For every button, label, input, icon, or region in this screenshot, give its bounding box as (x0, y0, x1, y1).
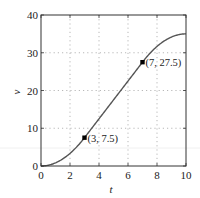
point-marker-square (82, 135, 86, 139)
y-tick-label: 40 (27, 9, 39, 21)
y-tick-label: 30 (27, 47, 39, 59)
x-tick-label: 4 (96, 169, 102, 181)
data-series (41, 34, 186, 166)
point-annotations: (3, 7.5)(7, 27.5) (82, 57, 182, 145)
y-tick-label: 0 (33, 160, 39, 172)
x-tick-label: 10 (181, 169, 193, 181)
y-tick-label: 20 (27, 85, 39, 97)
point-label: (3, 7.5) (88, 133, 119, 145)
velocity-curve (41, 34, 186, 166)
x-tick-label: 2 (67, 169, 73, 181)
y-tick-label: 10 (27, 122, 39, 134)
x-tick-label: 6 (125, 169, 131, 181)
y-axis-label: v (10, 89, 22, 94)
x-axis-label: t (109, 183, 113, 195)
velocity-time-chart: 0246810010203040 (3, 7.5)(7, 27.5) t v (0, 0, 200, 198)
point-label: (7, 27.5) (146, 57, 182, 69)
tick-labels: 0246810010203040 (27, 9, 192, 181)
x-tick-label: 8 (154, 169, 160, 181)
x-tick-label: 0 (38, 169, 44, 181)
point-marker-square (140, 60, 144, 64)
